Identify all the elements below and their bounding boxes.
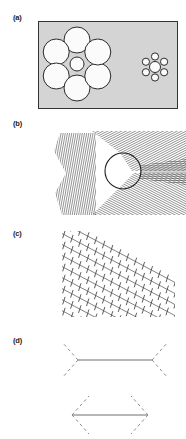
panel-a-graphic	[0, 0, 186, 115]
grating-line	[31, 115, 135, 225]
grating-line	[0, 198, 186, 225]
grating-line	[43, 115, 147, 225]
zollner-hatch-mark	[55, 282, 57, 290]
zollner-hatch-mark	[55, 237, 57, 245]
zollner-hatch-mark	[47, 277, 49, 285]
zollner-hatch-mark	[47, 299, 49, 307]
zollner-hatch-mark	[55, 249, 57, 257]
grating-line	[0, 115, 186, 143]
inducer-circle	[85, 63, 111, 89]
grating-line	[0, 115, 186, 127]
grating-line	[0, 115, 186, 119]
fin-line	[131, 396, 148, 415]
zollner-hatch-mark	[102, 318, 104, 325]
zollner-hatch-mark	[126, 287, 128, 295]
zollner-hatch-mark	[150, 266, 152, 274]
zollner-hatch-mark	[110, 311, 112, 319]
zollner-hatch-mark	[110, 289, 112, 297]
fin-line	[131, 415, 148, 434]
inducer-circle	[43, 39, 69, 65]
zollner-hatch-mark	[63, 308, 65, 316]
grating-line	[0, 182, 186, 225]
grating-line	[0, 152, 186, 225]
grating-line	[0, 115, 186, 188]
zollner-hatch-mark	[71, 225, 73, 231]
grating-line	[0, 115, 186, 183]
grating-line	[0, 115, 186, 119]
fin-line	[152, 342, 168, 360]
panel-c-zollner: (c)	[0, 225, 186, 325]
grating-line	[0, 152, 186, 225]
zollner-hatch-mark	[126, 253, 128, 261]
grating-line	[0, 215, 186, 225]
grating-line	[0, 115, 59, 225]
grating-line	[0, 210, 186, 225]
zollner-hatch-mark	[47, 255, 49, 263]
grating-line	[0, 115, 186, 128]
grating-line	[0, 115, 86, 225]
grating-line	[0, 115, 186, 205]
illusions-figure: (a) (b) (c) (d)	[0, 0, 186, 439]
grating-line	[0, 115, 186, 220]
zollner-hatch-mark	[158, 292, 160, 300]
zollner-main-line	[48, 259, 178, 325]
zollner-hatch-mark	[47, 233, 49, 241]
inward-fins-figure	[72, 396, 148, 434]
zollner-hatch-mark	[71, 312, 73, 320]
zollner-hatch-mark	[79, 261, 81, 269]
zollner-hatch-mark	[87, 243, 89, 251]
zollner-hatch-mark	[126, 276, 128, 284]
grating-line	[0, 176, 186, 225]
grating-line	[0, 115, 186, 160]
grating-line	[0, 115, 73, 225]
grating-line	[0, 129, 186, 225]
grating-line	[0, 135, 186, 225]
grating-line	[0, 115, 186, 130]
zollner-hatch-mark	[94, 303, 96, 311]
grating-line	[12, 115, 116, 225]
grating-line	[0, 176, 186, 225]
zollner-hatch-mark	[126, 298, 128, 306]
inducer-circle	[160, 58, 167, 65]
grating-line	[0, 208, 186, 225]
zollner-hatch-mark	[102, 241, 104, 249]
grating-line	[0, 125, 186, 225]
outward-fins-figure	[62, 342, 168, 378]
zollner-hatch-mark	[71, 246, 73, 254]
zollner-hatch-mark	[63, 231, 65, 239]
zollner-hatch-mark	[142, 306, 144, 314]
grating-line	[0, 115, 48, 225]
grating-line	[25, 115, 129, 225]
grating-line	[33, 115, 137, 225]
grating-line	[0, 115, 55, 225]
grating-line	[0, 115, 67, 225]
zollner-hatch-mark	[55, 293, 57, 301]
zollner-hatch-mark	[63, 242, 65, 250]
zollner-hatch-mark	[166, 297, 168, 305]
grating-line	[0, 115, 26, 225]
grating-line	[0, 198, 186, 225]
zollner-hatch-mark	[166, 308, 168, 316]
grating-line	[0, 115, 13, 225]
zollner-hatch-mark	[118, 260, 120, 268]
grating-line	[0, 115, 186, 183]
grating-line	[0, 115, 186, 160]
zollner-hatch-mark	[94, 314, 96, 322]
grating-line	[14, 115, 118, 225]
panel-b-graphic	[0, 115, 186, 225]
zollner-hatch-mark	[87, 298, 89, 306]
grating-line	[0, 115, 34, 225]
zollner-hatch-mark	[79, 228, 81, 236]
grating-line	[0, 213, 186, 225]
zollner-hatch-mark	[87, 232, 89, 240]
grating-line	[0, 115, 5, 225]
grating-line	[0, 115, 186, 136]
grating-line	[0, 115, 50, 225]
zollner-hatch-mark	[79, 294, 81, 302]
zollner-hatch-mark	[142, 317, 144, 325]
zollner-hatch-mark	[174, 279, 176, 287]
zollner-hatch-mark	[79, 316, 81, 324]
grating-line	[0, 115, 46, 225]
grating-line	[0, 115, 19, 225]
zollner-hatch-mark	[134, 302, 136, 310]
